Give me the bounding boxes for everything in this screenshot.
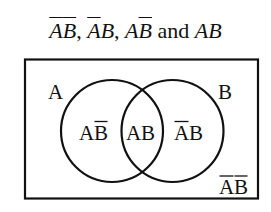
region-a-not-b-label: A B — [79, 121, 108, 145]
set-a-label: A — [48, 80, 64, 104]
region-neither-b: B — [234, 175, 248, 199]
region-not-a-b-a: A — [174, 121, 190, 145]
region-a-not-b-a: A — [79, 121, 95, 145]
venn-diagram: A B A B A B A B A B — [0, 0, 271, 212]
region-neither-label: A B — [219, 175, 248, 199]
region-a-and-b-label: A B — [126, 121, 155, 145]
region-a-and-b-b: B — [141, 121, 155, 145]
region-not-a-b-b: B — [189, 121, 203, 145]
region-a-and-b-a: A — [126, 121, 142, 145]
region-a-not-b-b: B — [94, 121, 108, 145]
set-b-label: B — [218, 80, 232, 104]
region-neither-a: A — [219, 175, 235, 199]
region-not-a-b-label: A B — [174, 121, 203, 145]
